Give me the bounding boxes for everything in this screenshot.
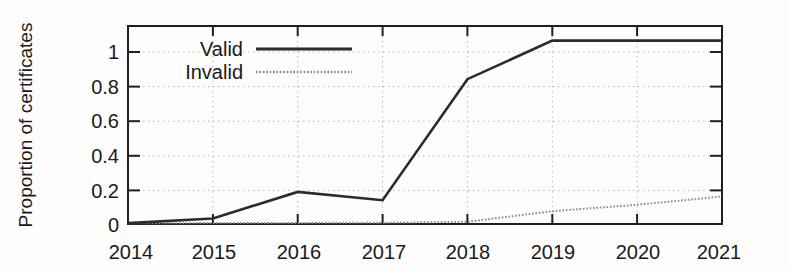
legend-label-valid: Valid (200, 38, 243, 60)
y-tick-label-0.2: 0.2 (91, 180, 119, 202)
line-chart: 1 0.8 0.6 0.4 0.2 0 2014 2015 2016 2017 … (0, 0, 788, 271)
y-tick-label-0.8: 0.8 (91, 76, 119, 98)
x-tick-label-2021: 2021 (697, 241, 742, 263)
x-tick-label-2017: 2017 (362, 241, 407, 263)
x-tick-label-2016: 2016 (277, 241, 322, 263)
x-tick-labels: 2014 2015 2016 2017 2018 2019 2020 2021 (109, 241, 742, 263)
x-tick-label-2018: 2018 (446, 241, 491, 263)
y-tick-label-0.6: 0.6 (91, 110, 119, 132)
x-tick-label-2014: 2014 (109, 241, 154, 263)
y-tick-label-1: 1 (108, 41, 119, 63)
y-tick-label-0: 0 (108, 214, 119, 236)
legend-label-invalid: Invalid (185, 61, 243, 83)
x-tick-label-2015: 2015 (192, 241, 237, 263)
chart-figure: 1 0.8 0.6 0.4 0.2 0 2014 2015 2016 2017 … (0, 0, 788, 271)
y-tick-label-0.4: 0.4 (91, 145, 119, 167)
y-tick-labels: 1 0.8 0.6 0.4 0.2 0 (91, 41, 119, 236)
y-axis-title: Proportion of certificates (15, 23, 36, 228)
x-tick-label-2019: 2019 (531, 241, 576, 263)
x-tick-label-2020: 2020 (616, 241, 661, 263)
